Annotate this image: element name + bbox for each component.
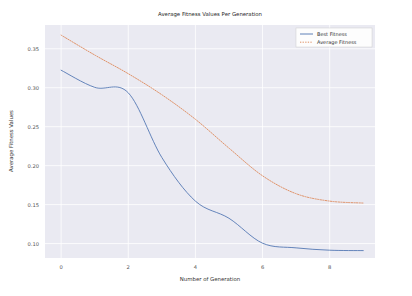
x-tick-label: 0 — [59, 264, 62, 270]
y-tick-label: 0.30 — [27, 85, 39, 91]
y-axis-label: Average Fitness Values — [8, 110, 15, 172]
y-tick-label: 0.10 — [27, 241, 39, 247]
figure-canvas: 02468 0.100.150.200.250.300.35 Average F… — [0, 0, 412, 296]
legend-label-average-fitness: Average Fitness — [317, 39, 357, 46]
plot-area-background — [45, 25, 375, 258]
y-tick-label: 0.35 — [27, 46, 39, 52]
legend-label-best-fitness: Best Fitness — [317, 31, 347, 37]
y-tick-label: 0.20 — [27, 163, 39, 169]
chart-title: Average Fitness Values Per Generation — [158, 11, 262, 18]
fitness-line-chart: 02468 0.100.150.200.250.300.35 Average F… — [0, 0, 412, 296]
y-tick-label: 0.15 — [27, 202, 39, 208]
x-tick-label: 8 — [328, 264, 331, 270]
x-tick-label: 2 — [127, 264, 130, 270]
chart-legend[interactable]: Best FitnessAverage Fitness — [296, 28, 372, 47]
x-tick-label: 6 — [261, 264, 264, 270]
x-axis-label: Number of Generation — [180, 276, 240, 282]
y-tick-label: 0.25 — [27, 124, 39, 130]
